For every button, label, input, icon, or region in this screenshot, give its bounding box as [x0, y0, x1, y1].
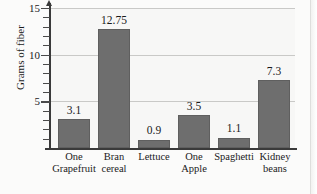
y-tick-1	[43, 139, 50, 140]
y-tick-13	[43, 27, 50, 28]
bar-value-spaghetti: 1.1	[227, 122, 241, 134]
bar-group-bran-cereal: 12.75	[98, 8, 130, 148]
bar-group-one-apple: 3.5	[178, 8, 210, 148]
y-tick-6	[43, 92, 50, 93]
bar-group-one-grapefruit: 3.1	[58, 8, 90, 148]
y-axis-title: Grams of fiber	[15, 3, 26, 113]
bar-value-one-apple: 3.5	[187, 100, 201, 112]
y-tick-4	[43, 111, 50, 112]
bar-spaghetti[interactable]	[218, 138, 250, 148]
y-tick-11	[43, 45, 50, 46]
bar-value-one-grapefruit: 3.1	[67, 104, 81, 116]
bar-one-apple[interactable]	[178, 115, 210, 148]
category-line-2: beans	[246, 163, 304, 175]
bar-value-lettuce: 0.9	[147, 124, 161, 136]
bar-lettuce[interactable]	[138, 140, 170, 148]
bar-value-kidney-beans: 7.3	[267, 65, 281, 77]
y-tick-14	[43, 17, 50, 18]
bar-group-kidney-beans: 7.3	[258, 8, 290, 148]
y-tick-5	[41, 101, 50, 102]
x-axis-category-labels: One Grapefruit Bran cereal Lettuce One A…	[50, 151, 295, 191]
category-label-kidney-beans: Kidney beans	[246, 151, 304, 175]
y-tick-10	[41, 55, 50, 56]
y-axis-tick-labels: 15 10 5 Grams of fiber	[6, 0, 40, 194]
bar-bran-cereal[interactable]	[98, 29, 130, 148]
bar-kidney-beans[interactable]	[258, 80, 290, 148]
bar-chart-figure: 15 10 5 Grams of fiber 3.1 12.75 0.9 3.5…	[0, 0, 317, 194]
category-line-2: cereal	[84, 163, 144, 175]
bar-value-bran-cereal: 12.75	[101, 14, 127, 26]
page-edge-shading	[311, 0, 317, 194]
bar-group-spaghetti: 1.1	[218, 8, 250, 148]
y-tick-7	[43, 83, 50, 84]
y-tick-3	[43, 120, 50, 121]
y-tick-8	[43, 73, 50, 74]
y-tick-12	[43, 36, 50, 37]
category-line-1: Kidney	[246, 151, 304, 163]
bar-one-grapefruit[interactable]	[58, 119, 90, 148]
y-tick-2	[43, 129, 50, 130]
x-axis-line	[45, 148, 297, 150]
page-edge-line	[310, 0, 311, 194]
y-tick-9	[43, 64, 50, 65]
y-tick-15	[41, 8, 50, 9]
bar-group-lettuce: 0.9	[138, 8, 170, 148]
y-axis-arrow-icon	[46, 0, 52, 6]
bars-container: 3.1 12.75 0.9 3.5 1.1 7.3	[50, 8, 295, 148]
category-line-2: Apple	[164, 163, 224, 175]
